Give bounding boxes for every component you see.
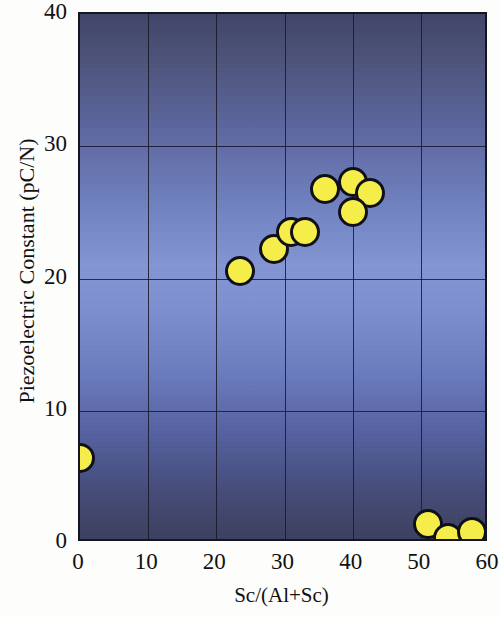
y-tick-label-0: 0	[56, 528, 68, 554]
gridline-vertical-50	[421, 14, 422, 539]
data-point	[290, 217, 320, 247]
x-tick-label-10: 10	[135, 549, 158, 575]
gridline-horizontal-30	[80, 146, 485, 147]
plot-area	[78, 12, 487, 541]
y-axis-title: Piezoelectric Constant (pC/N)	[14, 1, 40, 541]
data-point	[225, 256, 255, 286]
data-point	[338, 197, 368, 227]
x-tick-label-0: 0	[72, 549, 84, 575]
x-axis-title: Sc/(Al+Sc)	[0, 583, 499, 608]
data-point	[457, 517, 487, 541]
x-tick-label-40: 40	[339, 549, 362, 575]
gridline-vertical-10	[148, 14, 149, 539]
x-tick-label-60: 60	[476, 549, 499, 575]
gridline-vertical-40	[353, 14, 354, 539]
gridline-vertical-20	[216, 14, 217, 539]
gridline-vertical-30	[285, 14, 286, 539]
y-tick-label-10: 10	[44, 396, 67, 422]
y-tick-label-30: 30	[44, 131, 67, 157]
gridline-horizontal-10	[80, 411, 485, 412]
x-tick-label-50: 50	[407, 549, 430, 575]
x-tick-label-30: 30	[271, 549, 294, 575]
y-tick-label-20: 20	[44, 264, 67, 290]
y-tick-label-40: 40	[44, 0, 67, 25]
plot-texture-overlay	[80, 14, 485, 539]
data-point	[310, 174, 340, 204]
data-point	[78, 443, 95, 473]
gridline-horizontal-20	[80, 279, 485, 280]
x-tick-label-20: 20	[203, 549, 226, 575]
chart-page: 0102030405060 010203040 Sc/(Al+Sc) Piezo…	[0, 0, 499, 617]
